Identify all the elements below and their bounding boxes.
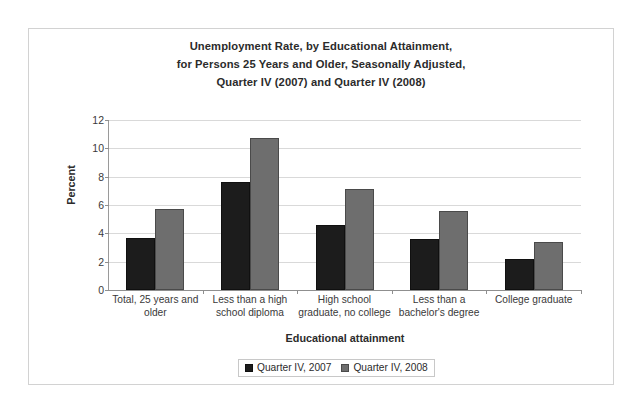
x-tick-label: Less than a highschool diploma [203,294,298,319]
legend-item[interactable]: Quarter IV, 2007 [245,362,331,373]
chart-title: Unemployment Rate, by Educational Attain… [29,37,613,91]
x-tick-label-line: bachelor's degree [392,307,487,320]
x-tick-label: High schoolgraduate, no college [297,294,392,319]
x-tick-mark [203,290,204,294]
x-tick-label-line: Less than a [392,294,487,307]
y-tick-mark-12 [105,120,109,121]
y-tick-mark-6 [105,205,109,206]
legend-swatch-icon [245,364,253,372]
x-tick-label-line: Less than a high [203,294,298,307]
y-tick-label-8: 8 [82,171,104,183]
y-tick-label-4: 4 [82,227,104,239]
x-tick-label-line: school diploma [203,307,298,320]
x-tick-mark [297,290,298,294]
x-tick-label: Less than abachelor's degree [392,294,487,319]
bar[interactable] [250,138,279,290]
y-tick-label-10: 10 [82,142,104,154]
chart-title-line-2: for Persons 25 Years and Older, Seasonal… [29,55,613,73]
chart-legend: Quarter IV, 2007Quarter IV, 2008 [238,359,435,377]
y-tick-mark-10 [105,148,109,149]
bar[interactable] [221,182,250,290]
bar[interactable] [155,209,184,290]
y-axis-tick-labels: 024681012 [78,120,104,290]
bar-group [505,120,563,290]
bar[interactable] [410,239,439,290]
x-tick-mark [486,290,487,294]
x-axis-title: Educational attainment [108,332,582,344]
legend-swatch-icon [341,364,349,372]
x-tick-label: College graduate [486,294,581,307]
plot-area [108,120,581,290]
y-tick-label-6: 6 [82,199,104,211]
bar-group [126,120,184,290]
y-tick-label-2: 2 [82,256,104,268]
gridline-y-0 [108,290,581,291]
y-tick-mark-8 [105,177,109,178]
x-tick-label-line: Total, 25 years and [108,294,203,307]
bar-group [316,120,374,290]
bar[interactable] [534,242,563,290]
chart-title-line-3: Quarter IV (2007) and Quarter IV (2008) [29,73,613,91]
chart-title-line-1: Unemployment Rate, by Educational Attain… [29,37,613,55]
y-axis-title: Percent [65,135,77,235]
bar-group [410,120,468,290]
x-tick-mark [392,290,393,294]
legend-label: Quarter IV, 2007 [257,362,331,373]
bar[interactable] [316,225,345,290]
bar[interactable] [345,189,374,290]
legend-item[interactable]: Quarter IV, 2008 [341,362,427,373]
chart-frame: Unemployment Rate, by Educational Attain… [28,28,614,385]
y-tick-label-12: 12 [82,114,104,126]
x-tick-label-line: older [108,307,203,320]
bar-group [221,120,279,290]
bar[interactable] [505,259,534,290]
x-tick-label-line: College graduate [486,294,581,307]
bar[interactable] [126,238,155,290]
legend-label: Quarter IV, 2008 [353,362,427,373]
x-tick-mark [581,290,582,294]
x-tick-label: Total, 25 years andolder [108,294,203,319]
y-tick-label-0: 0 [82,284,104,296]
x-tick-label-line: graduate, no college [297,307,392,320]
y-tick-mark-0 [105,290,109,291]
y-tick-mark-4 [105,233,109,234]
x-axis-tick-labels: Total, 25 years andolderLess than a high… [108,294,582,328]
bar[interactable] [439,211,468,290]
y-tick-mark-2 [105,262,109,263]
x-tick-label-line: High school [297,294,392,307]
